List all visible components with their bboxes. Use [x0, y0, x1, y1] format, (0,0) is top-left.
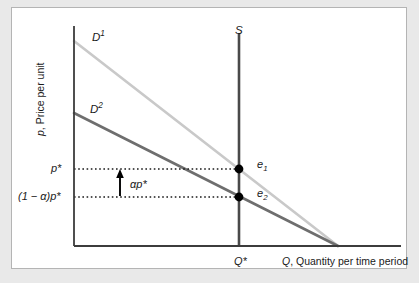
equilibrium-marker-e1 [235, 165, 244, 174]
figure-frame: p, Price per unit Q, Quantity per time p… [11, 7, 407, 269]
curve-label-d2: D2 [90, 102, 103, 115]
axis-value-q-star: Q* [234, 256, 247, 267]
y-axis-title: p, Price per unit [35, 37, 46, 161]
curve-label-s: S [235, 25, 243, 37]
equilibrium-label-e1: e1 [257, 159, 268, 173]
plot-area: p, Price per unit Q, Quantity per time p… [12, 8, 408, 270]
equilibrium-marker-e2 [235, 193, 244, 202]
x-axis-title: Q, Quantity per time period [282, 256, 408, 267]
shift-amount-label: αp* [130, 179, 147, 190]
axis-value-p-star-reduced: (1 − α)p* [18, 191, 61, 202]
chart-canvas [12, 8, 408, 270]
equilibrium-label-e2: e2 [257, 188, 268, 202]
curve-label-d1: D1 [92, 30, 105, 43]
shift-arrow-icon [116, 169, 124, 196]
demand-curve-d2 [74, 113, 338, 246]
axis-value-p-star: p* [51, 163, 61, 174]
demand-curve-d1 [74, 41, 338, 246]
